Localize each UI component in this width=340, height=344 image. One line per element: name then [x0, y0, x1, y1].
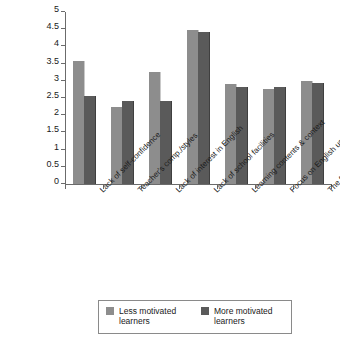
bar-chart: 00.511.522.533.544.55 Lack of self-confi… [0, 0, 340, 344]
legend-swatch-icon-less [106, 307, 114, 315]
legend-swatch-icon-more [201, 307, 209, 315]
x-axis-category-label: Focus on English usage [288, 188, 294, 194]
chart-legend: Less motivated learners More motivated l… [98, 300, 292, 334]
legend-item-more-motivated: More motivated learners [201, 306, 290, 326]
legend-label-less: Less motivated learners [119, 306, 195, 326]
x-axis-category-label: Lack of school facilities [212, 188, 218, 194]
x-axis-category-label: Learning contents & context [250, 188, 256, 194]
x-axis-category-label: Teacher's comp./styles [136, 188, 142, 194]
x-axis-category-label: Lack of self-confidence [98, 188, 104, 194]
legend-item-less-motivated: Less motivated learners [106, 306, 195, 326]
bars-layer [0, 0, 340, 200]
x-axis-labels: Lack of self-confidenceTeacher's comp./s… [0, 186, 340, 286]
plot-area: 00.511.522.533.544.55 [0, 0, 340, 200]
bar-more-motivated [84, 96, 96, 184]
x-axis-category-label: The focus of teaching [326, 188, 332, 194]
x-axis-category-label: Lack of interest in English [174, 188, 180, 194]
legend-label-more: More motivated learners [214, 306, 290, 326]
